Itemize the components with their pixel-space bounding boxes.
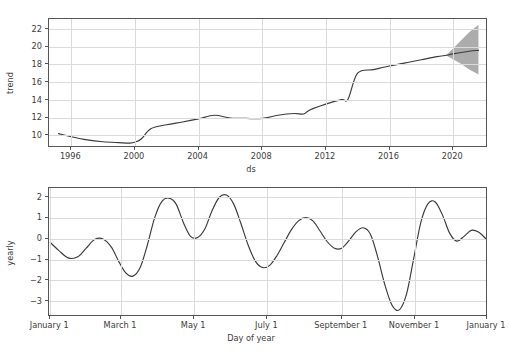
yearly-xtick-mark <box>120 316 121 319</box>
trend-xtick-mark <box>70 147 71 150</box>
trend-x-axis-label: ds <box>0 164 502 174</box>
footer-ghost-text <box>18 344 488 353</box>
trend-panel: trend 22 20 18 16 14 12 10 <box>0 0 502 175</box>
trend-xtick-mark <box>389 147 390 150</box>
yearly-ytick-label: −1 <box>18 255 42 263</box>
yearly-ytick-label: −2 <box>18 276 42 284</box>
gridline-vertical <box>453 19 454 146</box>
trend-ytick-label: 18 <box>20 60 42 68</box>
yearly-x-axis-label: Day of year <box>0 333 502 343</box>
yearly-xtick-label: November 1 <box>374 321 454 329</box>
yearly-y-axis-label: yearly <box>5 233 15 273</box>
gridline-horizontal <box>49 47 486 48</box>
yearly-plot-area <box>48 187 487 316</box>
yearly-xtick-mark <box>193 316 194 319</box>
trend-xtick-label: 2008 <box>241 152 281 160</box>
gridline-vertical <box>71 19 72 146</box>
gridline-vertical <box>194 188 195 315</box>
yearly-line <box>50 195 487 311</box>
gridline-vertical <box>390 19 391 146</box>
trend-ytick-label: 14 <box>20 96 42 104</box>
gridline-horizontal <box>49 29 486 30</box>
gridline-horizontal <box>49 135 486 136</box>
trend-ytick-label: 22 <box>20 25 42 33</box>
gridline-vertical <box>267 188 268 315</box>
gridline-horizontal <box>49 64 486 65</box>
trend-xtick-label: 2004 <box>178 152 218 160</box>
trend-ytick-label: 16 <box>20 78 42 86</box>
yearly-xtick-label: March 1 <box>85 321 155 329</box>
trend-plot-area <box>48 18 487 147</box>
trend-xtick-label: 2012 <box>305 152 345 160</box>
yearly-xtick-label: January 1 <box>451 321 510 329</box>
gridline-vertical <box>121 188 122 315</box>
trend-ytick-label: 20 <box>20 42 42 50</box>
gridline-vertical <box>135 19 136 146</box>
yearly-panel: yearly 2 1 0 −1 −2 −3 <box>0 178 502 353</box>
gridline-vertical <box>415 188 416 315</box>
gridline-vertical <box>199 19 200 146</box>
trend-xtick-label: 2020 <box>432 152 472 160</box>
trend-xtick-label: 1996 <box>50 152 90 160</box>
yearly-xtick-label: May 1 <box>158 321 228 329</box>
yearly-xtick-label: September 1 <box>301 321 381 329</box>
yearly-xtick-label: July 1 <box>231 321 301 329</box>
trend-xtick-mark <box>325 147 326 150</box>
yearly-ytick-label: −3 <box>18 297 42 305</box>
gridline-horizontal <box>49 100 486 101</box>
gridline-horizontal <box>49 118 486 119</box>
trend-xtick-label: 2016 <box>369 152 409 160</box>
trend-uncertainty-band <box>447 25 479 75</box>
trend-xtick-mark <box>198 147 199 150</box>
yearly-xtick-mark <box>49 316 50 319</box>
trend-y-axis-label: trend <box>5 63 15 103</box>
gridline-vertical <box>50 188 51 315</box>
trend-ytick-label: 10 <box>20 131 42 139</box>
gridline-vertical <box>342 188 343 315</box>
yearly-xtick-mark <box>341 316 342 319</box>
gridline-horizontal <box>49 82 486 83</box>
yearly-xtick-mark <box>414 316 415 319</box>
yearly-ytick-label: 1 <box>18 213 42 221</box>
trend-xtick-mark <box>134 147 135 150</box>
yearly-xtick-mark <box>486 316 487 319</box>
trend-ytick-label: 12 <box>20 113 42 121</box>
yearly-ytick-label: 0 <box>18 234 42 242</box>
yearly-xtick-mark <box>266 316 267 319</box>
yearly-xtick-label: January 1 <box>14 321 84 329</box>
trend-xtick-mark <box>261 147 262 150</box>
trend-xtick-label: 2000 <box>114 152 154 160</box>
gridline-vertical <box>326 19 327 146</box>
trend-xtick-mark <box>452 147 453 150</box>
yearly-ytick-label: 2 <box>18 193 42 201</box>
gridline-vertical <box>262 19 263 146</box>
